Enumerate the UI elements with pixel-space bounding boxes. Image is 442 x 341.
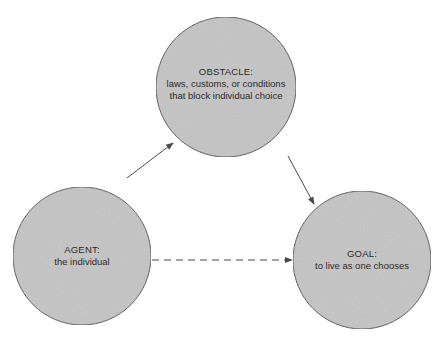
goal-desc: to live as one chooses xyxy=(315,260,409,272)
obstacle-label: OBSTACLE: laws, customs, or conditions t… xyxy=(167,66,286,102)
goal-title: GOAL: xyxy=(315,248,409,260)
diagram-canvas xyxy=(0,0,442,341)
goal-label: GOAL: to live as one chooses xyxy=(315,248,409,272)
obstacle-desc-line-1: laws, customs, or conditions xyxy=(167,78,286,90)
edge-obstacle-to-goal xyxy=(288,156,314,204)
obstacle-title: OBSTACLE: xyxy=(167,66,286,78)
agent-label: AGENT: the individual xyxy=(54,244,109,268)
obstacle-desc-line-2: that block individual choice xyxy=(167,90,286,102)
agent-title: AGENT: xyxy=(54,244,109,256)
edge-agent-to-obstacle xyxy=(127,143,173,178)
agent-desc: the individual xyxy=(54,256,109,268)
